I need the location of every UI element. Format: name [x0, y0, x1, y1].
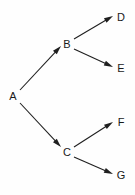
- graph-edge: [20, 103, 56, 142]
- graph-node-e: E: [117, 63, 124, 74]
- graph-edge: [20, 51, 56, 90]
- graph-edge: [74, 20, 107, 39]
- arrowheads-group: [53, 16, 113, 174]
- graph-node-a: A: [9, 91, 16, 102]
- arrow-head-icon: [104, 16, 113, 23]
- graph-edge: [74, 49, 107, 64]
- graph-node-c: C: [63, 147, 71, 158]
- arrow-head-icon: [104, 122, 113, 129]
- graph-edge: [74, 126, 107, 147]
- graph-edges-layer: [0, 0, 135, 195]
- graph-node-b: B: [63, 39, 70, 50]
- graph-node-f: F: [118, 117, 125, 128]
- arrow-head-icon: [104, 61, 113, 67]
- arrow-head-icon: [104, 168, 113, 174]
- graph-edge: [74, 157, 107, 171]
- graph-node-g: G: [117, 170, 126, 181]
- diagram-canvas: ABCDEFG: [0, 0, 135, 195]
- graph-node-d: D: [117, 12, 125, 23]
